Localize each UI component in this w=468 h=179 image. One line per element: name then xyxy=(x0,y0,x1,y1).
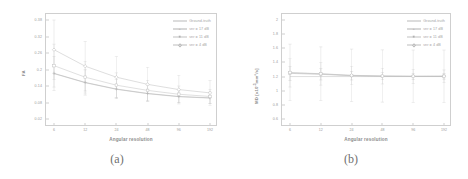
panel-b-y-axis-title-tail: mm²/s] xyxy=(254,68,259,83)
x-tick-mark xyxy=(290,123,291,126)
y-tick-label: 0.02 xyxy=(35,117,46,121)
series-ground-truth xyxy=(54,74,210,98)
x-tick-label: 6 xyxy=(53,125,55,132)
legend-label-snr-17: snr = 17 dB xyxy=(423,27,443,31)
series-snr-17-db xyxy=(289,72,446,78)
y-tick-mark xyxy=(282,90,285,91)
y-tick-label: 0.14 xyxy=(35,84,46,88)
legend-swatch-snr-11 xyxy=(173,34,187,39)
x-tick-mark xyxy=(320,123,321,126)
legend-swatch-snr-17: + xyxy=(407,26,421,31)
panel-a-x-axis-title: Angular resolution xyxy=(45,137,217,142)
panel-a-plot-frame: 0.020.080.140.20.260.320.38 612244896192… xyxy=(45,13,217,126)
x-tick-label: 12 xyxy=(319,125,323,132)
x-tick-mark xyxy=(351,123,352,126)
series-snr-17-db xyxy=(53,72,212,99)
x-tick-label: 96 xyxy=(411,125,415,132)
x-tick-label: 24 xyxy=(114,125,118,132)
x-tick-label: 48 xyxy=(146,125,150,132)
y-tick-label: 0.2 xyxy=(37,68,46,72)
y-tick-label: 0.26 xyxy=(35,51,46,55)
y-tick-mark xyxy=(282,104,285,105)
legend-label-snr-4: snr = 4 dB xyxy=(189,43,207,47)
legend-label-ground-truth: Ground-truth xyxy=(189,19,211,23)
legend-label-snr-4: snr = 4 dB xyxy=(423,43,441,47)
y-tick-mark xyxy=(282,62,285,63)
cross-marker-icon: + xyxy=(178,27,181,30)
panel-b-y-axis-title-main: MD [x10 xyxy=(254,86,259,104)
legend-swatch-snr-11 xyxy=(407,34,421,39)
y-tick-label: 0.08 xyxy=(35,101,46,105)
panel-b-caption: (b) xyxy=(234,152,468,167)
x-tick-mark xyxy=(210,123,211,126)
x-tick-mark xyxy=(382,123,383,126)
y-tick-mark xyxy=(282,48,285,49)
cross-marker-icon: + xyxy=(412,27,415,30)
legend-swatch-snr-4 xyxy=(407,43,421,48)
y-tick-label: 0.8 xyxy=(273,103,282,107)
x-tick-mark xyxy=(116,123,117,126)
panel-a: FA 0.020.080.140.20.260.320.38 612244896… xyxy=(0,0,234,179)
legend-swatch-snr-4 xyxy=(173,43,187,48)
x-tick-label: 96 xyxy=(177,125,181,132)
legend-swatch-snr-17: + xyxy=(173,26,187,31)
y-tick-mark xyxy=(282,20,285,21)
x-tick-label: 12 xyxy=(83,125,87,132)
x-tick-mark xyxy=(178,123,179,126)
panel-a-caption: (a) xyxy=(0,152,234,167)
legend-swatch-ground-truth xyxy=(407,18,421,23)
legend-label-snr-11: snr = 11 dB xyxy=(423,35,443,39)
x-tick-mark xyxy=(413,123,414,126)
legend-item: Ground-truth xyxy=(173,18,211,23)
x-tick-label: 48 xyxy=(380,125,384,132)
legend-item: Ground-truth xyxy=(407,18,445,23)
legend-item: snr = 4 dB xyxy=(173,43,211,48)
x-tick-mark xyxy=(444,123,445,126)
x-tick-label: 6 xyxy=(289,125,291,132)
y-tick-label: 1.6 xyxy=(273,46,282,50)
panel-b-plot-frame: 0.60.811.21.41.61.82 612244896192 Ground… xyxy=(281,13,451,126)
y-tick-label: 0.6 xyxy=(273,117,282,121)
legend-swatch-ground-truth xyxy=(173,18,187,23)
legend-item: + snr = 17 dB xyxy=(407,26,445,31)
y-tick-mark xyxy=(46,102,49,103)
error-bars-snr-11-db xyxy=(288,59,445,87)
legend-item: + snr = 17 dB xyxy=(173,26,211,31)
legend-label-ground-truth: Ground-truth xyxy=(423,19,445,23)
y-tick-mark xyxy=(282,76,285,77)
y-tick-label: 1.8 xyxy=(273,32,282,36)
x-tick-label: 192 xyxy=(207,125,213,132)
y-tick-mark xyxy=(46,53,49,54)
x-tick-label: 192 xyxy=(441,125,447,132)
legend-item: snr = 11 dB xyxy=(407,34,445,39)
figure-two-panel-plots: FA 0.020.080.140.20.260.320.38 612244896… xyxy=(0,0,468,179)
panel-b-y-axis-title: MD [x10-3mm²/s] xyxy=(253,68,259,104)
legend-item: snr = 4 dB xyxy=(407,43,445,48)
y-tick-label: 1.2 xyxy=(273,75,282,79)
panel-b-y-axis-title-exponent: -3 xyxy=(253,83,257,86)
y-tick-label: 0.32 xyxy=(35,35,46,39)
y-tick-mark xyxy=(282,34,285,35)
y-tick-mark xyxy=(46,119,49,120)
diamond-marker-icon xyxy=(412,43,416,47)
y-tick-mark xyxy=(46,69,49,70)
legend-label-snr-11: snr = 11 dB xyxy=(189,35,209,39)
panel-a-legend: Ground-truth + snr = 17 dB snr = 11 dB xyxy=(173,18,211,48)
square-marker-icon xyxy=(412,36,415,39)
y-tick-mark xyxy=(282,119,285,120)
x-tick-mark xyxy=(85,123,86,126)
x-tick-mark xyxy=(54,123,55,126)
panel-a-y-axis-title: FA xyxy=(21,70,26,76)
y-tick-label: 1.4 xyxy=(273,60,282,64)
diamond-marker-icon xyxy=(178,43,182,47)
legend-item: snr = 11 dB xyxy=(173,34,211,39)
y-tick-mark xyxy=(46,20,49,21)
y-tick-mark xyxy=(46,86,49,87)
panel-b: MD [x10-3mm²/s] 0.60.811.21.41.61.82 612… xyxy=(234,0,468,179)
square-marker-icon xyxy=(178,36,181,39)
panel-b-x-axis-title: Angular resolution xyxy=(281,137,451,142)
legend-label-snr-17: snr = 17 dB xyxy=(189,27,209,31)
x-tick-mark xyxy=(147,123,148,126)
panel-b-legend: Ground-truth + snr = 17 dB snr = 11 dB xyxy=(407,18,445,48)
y-tick-label: 0.38 xyxy=(35,18,46,22)
